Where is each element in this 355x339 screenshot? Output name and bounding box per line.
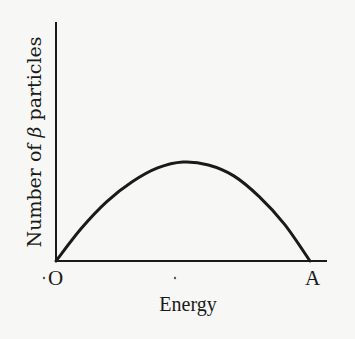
y-axis-label: Number of β particles (23, 37, 45, 248)
speck-dot (174, 277, 176, 279)
y-axis-label-text: Number of (23, 138, 45, 248)
spectrum-curve (56, 162, 310, 261)
max-energy-label: A (305, 266, 320, 291)
y-axis-label-text: particles (23, 37, 45, 127)
x-axis-label: Energy (159, 293, 216, 316)
beta-symbol: β (23, 127, 45, 138)
origin-label: O (48, 266, 63, 291)
beta-spectrum-figure: Number of β particles O A Energy (0, 0, 355, 339)
speck-dot (43, 277, 45, 279)
